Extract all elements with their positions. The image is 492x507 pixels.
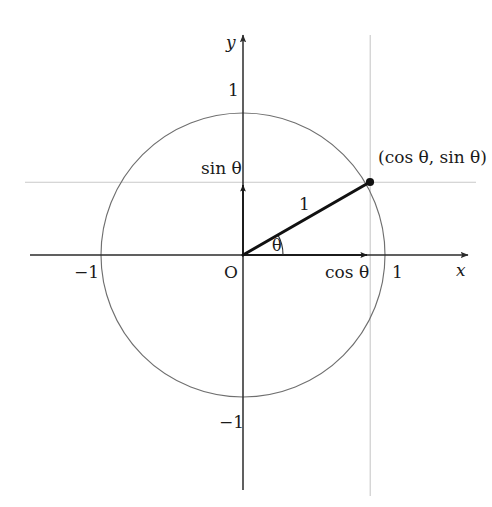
x-axis-label: x [456,262,466,279]
radius-segment [243,182,370,255]
point-coordinates-label: (cos θ, sin θ) [378,149,487,166]
radius-length-label: 1 [299,196,310,213]
angle-theta-label: θ [272,238,282,254]
point-on-circle [366,178,374,186]
unit-circle-figure: x y O 1 −1 −1 1 sin θ cos θ 1 θ (cos θ, … [0,0,492,507]
y-tick-positive-one: 1 [228,82,239,99]
cos-theta-label: cos θ [325,264,369,281]
y-tick-negative-one: −1 [219,414,244,431]
origin-label: O [224,264,238,281]
x-tick-positive-one: 1 [392,264,403,281]
x-tick-negative-one: −1 [74,264,99,281]
unit-circle-canvas [0,0,492,507]
y-axis-label: y [226,34,236,51]
sin-theta-label: sin θ [201,160,242,177]
